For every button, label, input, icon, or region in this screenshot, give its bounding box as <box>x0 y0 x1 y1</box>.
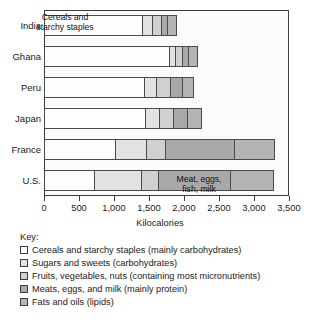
bar-segment-1 <box>144 77 157 98</box>
legend-item-2: Fruits, vegetables, nuts (containing mos… <box>20 270 320 282</box>
bar-segment-4 <box>230 170 273 191</box>
legend-label-3: Meats, eggs, and milk (mainly protein) <box>32 284 187 294</box>
y-axis-label-ghana: Ghana <box>0 52 41 62</box>
legend-swatch-0 <box>20 246 28 254</box>
legend-swatch-1 <box>20 259 28 267</box>
x-axis-ticks <box>44 196 289 201</box>
x-tick-1 <box>79 196 80 201</box>
x-tick-7 <box>289 196 290 201</box>
legend-item-3: Meats, eggs, and milk (mainly protein) <box>20 283 320 295</box>
bar-segment-0 <box>44 77 145 98</box>
y-axis-label-france: France <box>0 145 41 155</box>
bar-segment-3 <box>158 170 231 191</box>
x-tick-label-5: 2,500 <box>207 203 230 213</box>
x-axis-title: Kilocalories <box>0 218 320 228</box>
y-axis-labels: IndiaGhanaPeruJapanFranceU.S. <box>0 10 41 196</box>
legend-title: Key: <box>20 232 320 242</box>
bar-segment-0 <box>44 139 116 160</box>
bar-japan <box>44 108 202 129</box>
bars-layer <box>44 10 289 196</box>
bar-segment-2 <box>141 170 159 191</box>
x-tick-2 <box>114 196 115 201</box>
y-axis-label-peru: Peru <box>0 83 41 93</box>
bar-segment-3 <box>173 108 188 129</box>
bar-segment-3 <box>165 139 235 160</box>
x-tick-label-3: 1,500 <box>137 203 160 213</box>
bar-segment-1 <box>115 139 148 160</box>
bar-segment-4 <box>182 77 194 98</box>
legend-swatch-3 <box>20 285 28 293</box>
y-axis-label-india: India <box>0 21 41 31</box>
bar-segment-2 <box>159 108 174 129</box>
bar-france <box>44 139 275 160</box>
x-tick-5 <box>219 196 220 201</box>
bar-ghana <box>44 46 198 67</box>
bar-segment-4 <box>187 108 202 129</box>
legend-label-1: Sugars and sweets (carbohydrates) <box>32 258 177 268</box>
bar-segment-1 <box>94 170 141 191</box>
bar-segment-0 <box>44 170 95 191</box>
x-tick-label-1: 500 <box>71 203 87 213</box>
y-axis-label-japan: Japan <box>0 114 41 124</box>
legend-item-4: Fats and oils (lipids) <box>20 296 320 308</box>
stacked-bar-chart: IndiaGhanaPeruJapanFranceU.S. Cereals an… <box>0 0 320 322</box>
bar-segment-2 <box>146 139 166 160</box>
x-tick-label-4: 2,000 <box>172 203 195 213</box>
legend-swatch-2 <box>20 272 28 280</box>
bar-us <box>44 170 274 191</box>
x-tick-label-2: 1,000 <box>102 203 125 213</box>
legend-swatch-4 <box>20 298 28 306</box>
legend-label-0: Cereals and starchy staples (mainly carb… <box>32 245 241 255</box>
x-tick-4 <box>184 196 185 201</box>
x-tick-label-0: 0 <box>41 203 46 213</box>
bar-segment-0 <box>44 108 146 129</box>
legend-label-2: Fruits, vegetables, nuts (containing mos… <box>32 271 260 281</box>
bar-segment-4 <box>188 46 197 67</box>
bar-segment-2 <box>156 77 170 98</box>
legend-items: Cereals and starchy staples (mainly carb… <box>20 244 320 308</box>
x-tick-0 <box>44 196 45 201</box>
bar-segment-4 <box>234 139 275 160</box>
x-tick-label-6: 3,000 <box>242 203 265 213</box>
legend: Key: Cereals and starchy staples (mainly… <box>20 232 320 309</box>
bar-segment-4 <box>167 15 177 36</box>
x-tick-6 <box>254 196 255 201</box>
bar-segment-0 <box>44 15 143 36</box>
legend-label-4: Fats and oils (lipids) <box>32 297 114 307</box>
bar-segment-0 <box>44 46 170 67</box>
x-tick-3 <box>149 196 150 201</box>
y-axis-label-us: U.S. <box>0 176 41 186</box>
bar-segment-1 <box>145 108 160 129</box>
bar-peru <box>44 77 194 98</box>
bar-india <box>44 15 177 36</box>
legend-item-0: Cereals and starchy staples (mainly carb… <box>20 244 320 256</box>
x-tick-label-7: 3,500 <box>277 203 300 213</box>
legend-item-1: Sugars and sweets (carbohydrates) <box>20 257 320 269</box>
